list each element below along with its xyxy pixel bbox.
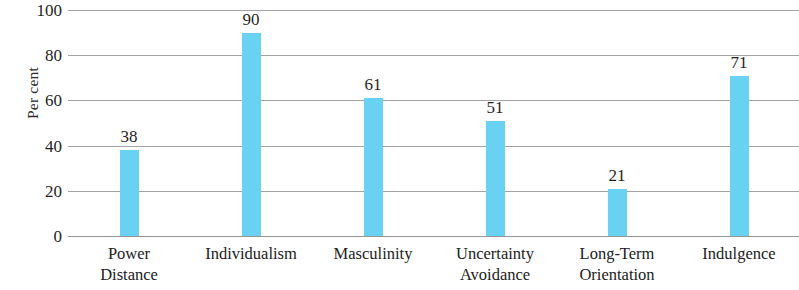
bar-group: 38 — [68, 10, 190, 236]
bar-chart: Per cent 100 80 60 40 20 0 38 90 — [0, 0, 799, 290]
x-label-indulgence: Indulgence — [664, 243, 799, 264]
bar[interactable] — [730, 76, 749, 236]
y-tick-label: 0 — [4, 228, 62, 245]
bar[interactable] — [486, 121, 505, 236]
x-label-line: Orientation — [542, 264, 692, 285]
bar-value-label: 21 — [582, 167, 652, 184]
bar-group: 61 — [312, 10, 434, 236]
bar-group: 21 — [556, 10, 678, 236]
plot-area: 38 90 61 51 21 71 — [68, 0, 799, 290]
x-axis-category-labels: Power Distance Individualism Masculinity… — [68, 243, 799, 290]
bar-value-label: 38 — [94, 128, 164, 145]
bar-group: 71 — [678, 10, 799, 236]
bar[interactable] — [120, 150, 139, 236]
bar-group: 90 — [190, 10, 312, 236]
bar-value-label: 90 — [216, 11, 286, 28]
bar-series: 38 90 61 51 21 71 — [68, 10, 799, 236]
y-tick-label: 20 — [4, 183, 62, 200]
x-label-line: Distance — [54, 264, 204, 285]
bar[interactable] — [364, 98, 383, 236]
y-tick-label: 100 — [4, 2, 62, 19]
bar-value-label: 71 — [704, 54, 774, 71]
bar-group: 51 — [434, 10, 556, 236]
y-axis-tick-labels: 100 80 60 40 20 0 — [0, 0, 62, 290]
x-label-line: Indulgence — [664, 243, 799, 264]
y-tick-label: 40 — [4, 138, 62, 155]
bar[interactable] — [242, 33, 261, 236]
bar[interactable] — [608, 189, 627, 236]
bar-value-label: 51 — [460, 99, 530, 116]
axis-baseline — [68, 236, 799, 237]
bar-value-label: 61 — [338, 76, 408, 93]
y-tick-label: 80 — [4, 47, 62, 64]
y-tick-label: 60 — [4, 92, 62, 109]
